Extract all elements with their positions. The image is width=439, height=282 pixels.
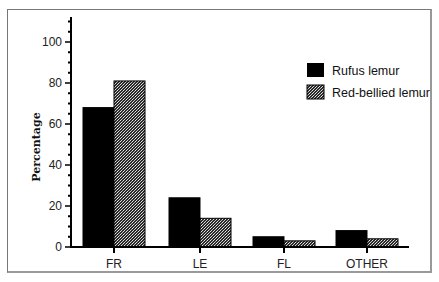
- y-tick-label: 100: [42, 35, 62, 49]
- legend-label-red-bellied: Red-bellied lemur: [332, 86, 430, 100]
- bar-other-red-bellied: [367, 239, 398, 247]
- x-tick-label-fl: FL: [277, 257, 291, 271]
- y-axis-label: Percentage: [30, 112, 43, 181]
- bars: [83, 81, 398, 247]
- x-axis: FRLEFLOTHER: [70, 247, 409, 271]
- y-tick-label: 40: [49, 158, 63, 172]
- x-tick-label-fr: FR: [106, 257, 122, 271]
- y-tick-label: 20: [49, 199, 63, 213]
- y-tick-label: 0: [55, 240, 62, 254]
- bar-le-red-bellied: [200, 218, 231, 247]
- x-tick-label-le: LE: [193, 257, 208, 271]
- legend-label-rufus: Rufus lemur: [332, 64, 399, 78]
- bar-fr-rufus: [83, 108, 114, 247]
- bar-fl-rufus: [253, 237, 284, 247]
- legend: Rufus lemur Red-bellied lemur: [307, 63, 430, 100]
- legend-swatch-rufus: [307, 63, 324, 77]
- bar-chart: 020406080100 FRLEFLOTHER Percentage Rufu…: [0, 0, 439, 282]
- y-axis: 020406080100: [42, 17, 71, 254]
- x-tick-label-other: OTHER: [346, 257, 388, 271]
- bar-le-rufus: [169, 198, 200, 247]
- legend-swatch-red-bellied: [307, 85, 324, 99]
- y-tick-label: 80: [49, 76, 63, 90]
- y-tick-label: 60: [49, 117, 63, 131]
- bar-fr-red-bellied: [114, 81, 145, 247]
- bar-other-rufus: [336, 231, 367, 247]
